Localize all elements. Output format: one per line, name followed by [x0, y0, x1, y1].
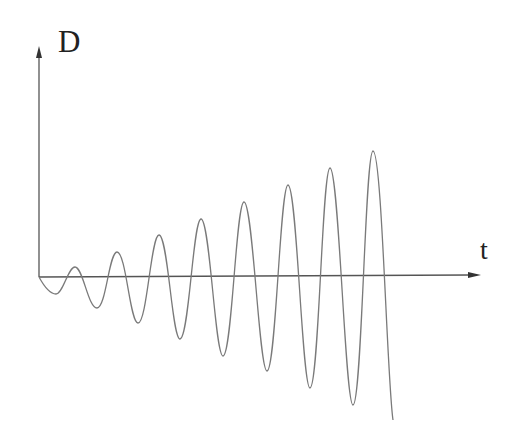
x-axis-arrow-icon: [468, 272, 481, 278]
x-axis-label: t: [480, 234, 488, 265]
y-axis-arrow-icon: [36, 46, 42, 58]
oscillation-curve: [39, 151, 393, 420]
y-axis-label: D: [58, 24, 80, 59]
oscillation-diagram: D t: [0, 0, 511, 436]
